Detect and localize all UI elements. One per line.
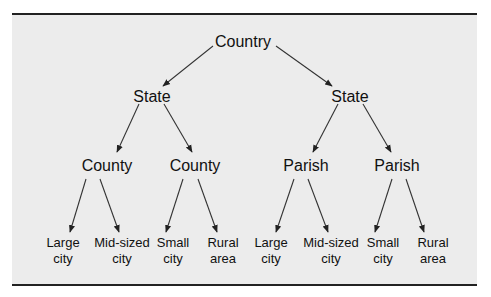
leaf-line-2: city (367, 251, 400, 267)
edge-county-2-small (166, 179, 183, 232)
edge-county-1-large (70, 179, 86, 232)
leaf-midsized-city-parish: Mid-sized city (303, 235, 359, 267)
leaf-rural-area-parish: Rural area (417, 235, 448, 267)
edge-parish-1-large (276, 179, 294, 232)
leaf-line-1: Rural (417, 235, 448, 251)
node-country: Country (215, 33, 271, 51)
node-state-left: State (133, 88, 170, 106)
leaf-line-1: Large (254, 235, 287, 251)
leaf-line-1: Mid-sized (303, 235, 359, 251)
leaf-line-2: city (303, 251, 359, 267)
leaf-line-2: area (207, 251, 238, 267)
leaf-line-2: city (46, 251, 79, 267)
edge-parish-2-rural (406, 179, 424, 232)
edge-state-left-county-1 (117, 104, 139, 152)
leaf-small-city-parish: Small city (367, 235, 400, 267)
edge-state-right-parish-2 (363, 104, 391, 152)
leaf-line-1: Small (157, 235, 190, 251)
leaf-line-1: Small (367, 235, 400, 251)
leaf-line-1: Large (46, 235, 79, 251)
leaf-line-1: Mid-sized (94, 235, 150, 251)
edge-country-state-left (163, 46, 213, 86)
node-county-2: County (170, 157, 221, 175)
leaf-small-city-county: Small city (157, 235, 190, 267)
leaf-rural-area-county: Rural area (207, 235, 238, 267)
leaf-line-2: city (254, 251, 287, 267)
leaf-line-1: Rural (207, 235, 238, 251)
node-state-right: State (331, 88, 368, 106)
edge-parish-2-small (375, 179, 392, 232)
leaf-large-city-parish: Large city (254, 235, 287, 267)
node-parish-2: Parish (374, 157, 419, 175)
node-parish-1: Parish (283, 157, 328, 175)
edge-county-2-rural (198, 179, 217, 232)
edge-country-state-right (276, 46, 332, 86)
edge-state-left-county-2 (164, 104, 192, 152)
leaf-midsized-city-county: Mid-sized city (94, 235, 150, 267)
edge-county-1-midsized (100, 179, 119, 232)
leaf-line-2: city (157, 251, 190, 267)
edge-parish-1-midsized (308, 179, 328, 232)
node-county-1: County (82, 157, 133, 175)
leaf-line-2: area (417, 251, 448, 267)
leaf-large-city-county: Large city (46, 235, 79, 267)
leaf-line-2: city (94, 251, 150, 267)
edge-state-right-parish-1 (313, 104, 338, 152)
